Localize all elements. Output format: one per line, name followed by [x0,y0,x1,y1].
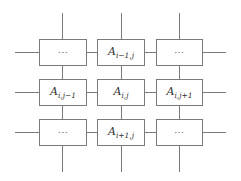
ellipsis: ⋯ [174,47,185,58]
ellipsis: ⋯ [58,127,69,138]
cell-a-i-j: Ai,j [97,79,145,106]
cell-ellipsis-top-right: ⋯ [156,39,203,66]
cell-label: Ai−1,j [108,46,134,60]
grid-diagram: ⋯ Ai−1,j ⋯ Ai,j−1 Ai,j Ai,j+1 ⋯ Ai+1,j ⋯ [0,0,241,181]
cell-a-i-j-minus-1: Ai,j−1 [39,79,87,106]
ellipsis: ⋯ [174,127,185,138]
cell-label: Ai,j−1 [50,86,76,100]
ellipsis: ⋯ [58,47,69,58]
cell-label: Ai+1,j [108,126,134,140]
cell-a-i-j-plus-1: Ai,j+1 [156,79,203,106]
cell-ellipsis-top-left: ⋯ [39,39,87,66]
cell-ellipsis-bottom-left: ⋯ [39,119,87,146]
cell-a-i-plus-1-j: Ai+1,j [97,119,145,146]
cell-label: Ai,j [113,86,128,100]
cell-ellipsis-bottom-right: ⋯ [156,119,203,146]
cell-a-i-minus-1-j: Ai−1,j [97,39,145,66]
cell-label: Ai,j+1 [166,86,192,100]
